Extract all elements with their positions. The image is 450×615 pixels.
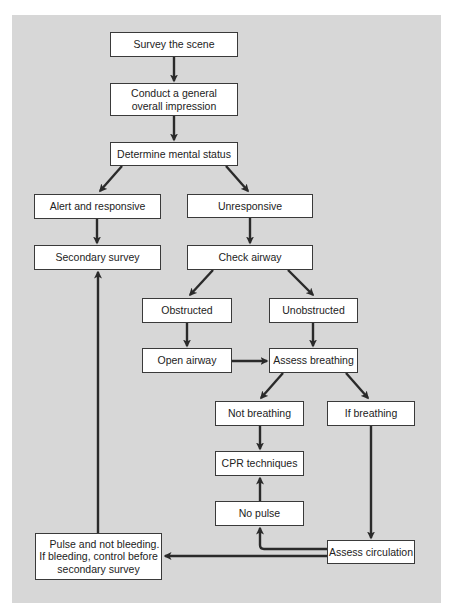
node-label-line1: Conduct a general xyxy=(131,87,217,100)
node-label: Determine mental status xyxy=(117,148,231,161)
node-survey-scene: Survey the scene xyxy=(110,32,238,57)
node-label: Assess circulation xyxy=(329,546,413,559)
node-label: Not breathing xyxy=(228,407,291,420)
node-label-line2: If bleeding, control before xyxy=(39,550,158,563)
node-alert-responsive: Alert and responsive xyxy=(34,194,161,219)
node-pulse-not-bleeding: Pulse and not bleeding. If bleeding, con… xyxy=(35,533,162,580)
node-label: Survey the scene xyxy=(133,38,214,51)
node-unresponsive: Unresponsive xyxy=(187,194,313,218)
node-assess-circulation: Assess circulation xyxy=(327,540,415,564)
node-label-line3: secondary survey xyxy=(57,563,139,576)
node-label: Obstructed xyxy=(161,304,212,317)
node-label: Assess breathing xyxy=(273,354,354,367)
node-unobstructed: Unobstructed xyxy=(269,298,358,323)
node-label: Check airway xyxy=(218,251,281,264)
node-not-breathing: Not breathing xyxy=(215,401,304,426)
node-secondary-survey: Secondary survey xyxy=(34,245,161,270)
node-label: Open airway xyxy=(158,354,217,367)
node-label: Secondary survey xyxy=(55,251,139,264)
node-general-impression: Conduct a general overall impression xyxy=(110,83,238,116)
node-assess-breathing: Assess breathing xyxy=(269,348,358,373)
node-mental-status: Determine mental status xyxy=(110,142,238,166)
node-label: CPR techniques xyxy=(222,457,298,470)
node-label: If breathing xyxy=(345,407,398,420)
node-no-pulse: No pulse xyxy=(215,501,304,526)
node-label: Unobstructed xyxy=(282,304,344,317)
node-label-line1: Pulse and not bleeding. xyxy=(38,538,160,551)
node-cpr-techniques: CPR techniques xyxy=(215,451,304,476)
node-check-airway: Check airway xyxy=(187,245,313,270)
node-label: No pulse xyxy=(239,507,280,520)
node-obstructed: Obstructed xyxy=(142,298,232,323)
node-label-line2: overall impression xyxy=(132,100,217,113)
node-label: Unresponsive xyxy=(218,200,282,213)
node-open-airway: Open airway xyxy=(142,348,232,373)
node-if-breathing: If breathing xyxy=(327,401,415,426)
node-label: Alert and responsive xyxy=(50,200,146,213)
